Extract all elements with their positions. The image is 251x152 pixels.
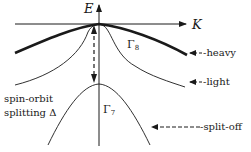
spin-orbit-label-line2: splitting Δ (4, 107, 56, 118)
heavy-band-curve (15, 24, 187, 55)
light-band-curve (15, 24, 185, 87)
gamma8-label: Γ8 (127, 38, 139, 52)
band-diagram: E K Γ8 Γ7 spin-orbit splitting Δ -heavy … (0, 0, 251, 152)
k-axis-label: K (191, 17, 203, 32)
light-band-label: -light (203, 76, 230, 87)
e-axis-label: E (83, 1, 94, 16)
split-off-band-label: -split-off (200, 121, 243, 132)
heavy-band-label: -heavy (203, 47, 236, 58)
gamma7-label: Γ7 (103, 103, 115, 117)
arrow-down-head (91, 74, 97, 83)
spin-orbit-label-line1: spin-orbit (4, 93, 53, 104)
